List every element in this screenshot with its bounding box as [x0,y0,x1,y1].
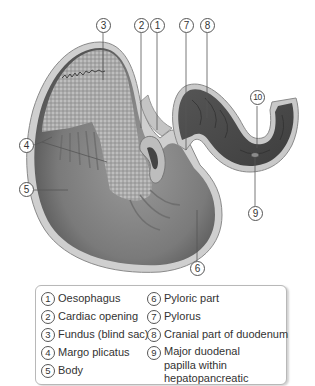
legend-item-4: 4 Margo plicatus [41,345,149,363]
legend-number: 9 [147,346,161,360]
legend-left-column: 1 Oesophagus 2 Cardiac opening 3 Fundus … [41,291,149,381]
legend-right-column: 6 Pyloric part 7 Pylorus 8 Cranial part … [147,291,288,375]
legend-label: Cranial part of duodenum [164,327,288,342]
legend-number: 1 [41,292,55,306]
legend-number: 3 [41,328,55,342]
callout-2: 2 [134,18,149,33]
callout-9: 9 [248,206,263,221]
legend-item-7: 7 Pylorus [147,309,288,327]
legend-label: Pylorus [164,309,201,324]
legend-label: Body [58,363,83,378]
legend-box: 1 Oesophagus 2 Cardiac opening 3 Fundus … [35,285,287,385]
legend-item-6: 6 Pyloric part [147,291,288,309]
legend-item-3: 3 Fundus (blind sac) [41,327,149,345]
legend-label: Fundus (blind sac) [58,327,149,342]
callout-5: 5 [19,182,34,197]
legend-item-8: 8 Cranial part of duodenum [147,327,288,345]
legend-label: Margo plicatus [58,345,130,360]
legend-label: Pyloric part [164,291,219,306]
callout-8: 8 [200,18,215,33]
stomach-diagram: 3 2 1 7 8 10 4 5 9 6 [0,0,315,280]
legend-label: Oesophagus [58,291,120,306]
callout-1: 1 [150,18,165,33]
legend-item-1: 1 Oesophagus [41,291,149,309]
legend-number: 6 [147,292,161,306]
legend-number: 4 [41,346,55,360]
duodenal-papilla [251,153,259,158]
legend-number: 5 [41,364,55,378]
legend-label: Cardiac opening [58,309,138,324]
legend-item-9: 9 Major duodenal papilla within hepatopa… [147,345,288,375]
callout-10: 10 [250,90,265,105]
legend-number: 2 [41,310,55,324]
stomach-illustration [0,0,315,280]
legend-item-5: 5 Body [41,363,149,381]
legend-item-2: 2 Cardiac opening [41,309,149,327]
legend-number: 7 [147,310,161,324]
callout-3: 3 [96,18,111,33]
callout-4: 4 [19,138,34,153]
legend-label: Major duodenal papilla within hepatopanc… [164,345,274,386]
legend-number: 8 [147,328,161,342]
callout-7: 7 [179,18,194,33]
callout-6: 6 [190,261,205,276]
